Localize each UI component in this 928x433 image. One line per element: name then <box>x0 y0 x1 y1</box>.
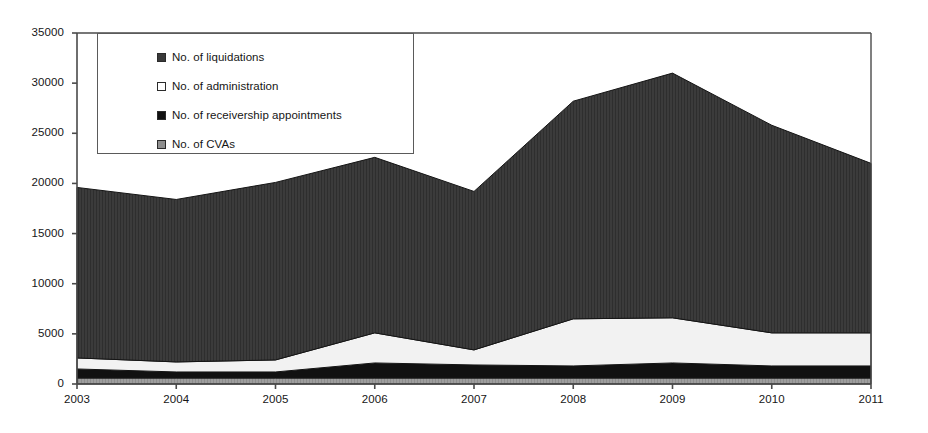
x-tick-label: 2008 <box>543 393 603 405</box>
legend-swatch-icon <box>157 111 166 120</box>
stacked-area-chart: 05000100001500020000250003000035000 2003… <box>0 0 928 433</box>
legend-swatch-icon <box>157 82 166 91</box>
legend-item[interactable]: No. of receivership appointments <box>157 108 342 122</box>
x-tick-label: 2009 <box>643 393 703 405</box>
legend-item-label: No. of CVAs <box>172 138 235 150</box>
x-tick-label: 2010 <box>742 393 802 405</box>
y-tick-label: 20000 <box>12 176 64 188</box>
y-tick-label: 0 <box>12 377 64 389</box>
y-tick-label: 30000 <box>12 76 64 88</box>
legend-item[interactable]: No. of administration <box>157 79 279 93</box>
legend-item-label: No. of administration <box>172 80 279 92</box>
y-tick-label: 5000 <box>12 327 64 339</box>
legend-item-label: No. of receivership appointments <box>172 109 342 121</box>
legend-swatch-icon <box>157 53 166 62</box>
legend-item[interactable]: No. of CVAs <box>157 137 235 151</box>
x-tick-label: 2006 <box>345 393 405 405</box>
y-tick-label: 15000 <box>12 227 64 239</box>
y-tick-label: 35000 <box>12 26 64 38</box>
x-tick-label: 2003 <box>47 393 107 405</box>
legend-item[interactable]: No. of liquidations <box>157 50 264 64</box>
y-tick-label: 10000 <box>12 277 64 289</box>
chart-legend[interactable]: No. of liquidationsNo. of administration… <box>97 33 414 154</box>
x-tick-label: 2011 <box>841 393 901 405</box>
x-tick-label: 2004 <box>146 393 206 405</box>
y-tick-label: 25000 <box>12 126 64 138</box>
area-series-no-of-cvas <box>77 378 871 384</box>
x-tick-label: 2005 <box>246 393 306 405</box>
x-tick-label: 2007 <box>444 393 504 405</box>
legend-swatch-icon <box>157 140 166 149</box>
legend-item-label: No. of liquidations <box>172 51 264 63</box>
